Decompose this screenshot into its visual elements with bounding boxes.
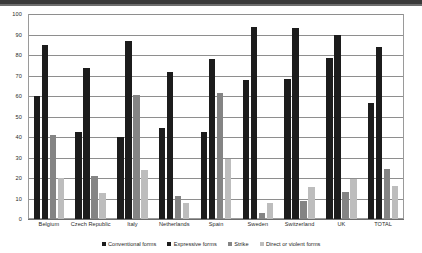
bar-group-belgium [28,14,70,219]
bar-total-series-2 [384,169,391,219]
legend-label-2: Strike [234,241,248,247]
y-tick-label-100: 100 [12,11,22,17]
bar-total-series-3 [392,186,399,219]
bar-spain-series-1 [209,59,216,219]
bar-belgium-series-3 [58,178,65,219]
chart-container: 0102030405060708090100 BelgiumCzech Repu… [0,0,422,253]
bar-uk-series-2 [342,192,349,219]
bar-italy-series-1 [125,41,132,219]
bar-group-total [362,14,404,219]
legend-item-strike[interactable]: Strike [228,241,249,247]
chart-legend: Conventional formsExpressive formsStrike… [0,238,422,250]
bar-uk-series-0 [326,58,333,219]
bar-netherlands-series-1 [167,72,174,219]
bar-czech-republic-series-2 [91,176,98,219]
bar-group-netherlands [153,14,195,219]
bar-spain-series-0 [201,132,208,219]
bar-sweden-series-3 [267,203,274,219]
x-tick-label-uk: UK [320,221,362,233]
bar-group-sweden [237,14,279,219]
legend-item-conventional-forms[interactable]: Conventional forms [102,241,157,247]
bar-belgium-series-2 [50,135,57,219]
legend-swatch-icon-0 [102,242,106,246]
legend-item-expressive-forms[interactable]: Expressive forms [167,241,216,247]
bar-italy-series-0 [117,137,124,219]
legend-swatch-icon-1 [167,242,171,246]
y-tick-label-10: 10 [16,196,22,202]
y-tick-label-0: 0 [19,216,22,222]
y-tick-label-30: 30 [16,155,22,161]
x-axis-category-labels: BelgiumCzech RepublicItalyNetherlandsSpa… [28,221,404,233]
bar-spain-series-2 [217,93,224,219]
bar-group-uk [320,14,362,219]
legend-item-direct-or-violent-forms[interactable]: Direct or violent forms [260,241,321,247]
y-tick-label-80: 80 [16,52,22,58]
bar-czech-republic-series-3 [99,193,106,219]
y-tick-label-50: 50 [16,114,22,120]
bar-switzerland-series-1 [292,28,299,219]
x-tick-label-total: TOTAL [362,221,404,233]
y-tick-label-70: 70 [16,73,22,79]
bar-netherlands-series-3 [183,203,190,219]
scan-edge-band-secondary [0,4,422,6]
bar-switzerland-series-2 [300,201,307,219]
bar-belgium-series-0 [34,96,41,219]
bar-sweden-series-1 [251,27,258,219]
bar-total-series-0 [368,103,375,219]
x-tick-label-italy: Italy [112,221,154,233]
legend-label-1: Expressive forms [174,241,217,247]
bar-belgium-series-1 [42,45,49,219]
bar-netherlands-series-0 [159,128,166,219]
bar-group-czech-republic [70,14,112,219]
bar-uk-series-3 [350,179,357,219]
y-tick-label-60: 60 [16,93,22,99]
x-tick-label-czech-republic: Czech Republic [70,221,112,233]
x-tick-label-netherlands: Netherlands [153,221,195,233]
bar-czech-republic-series-0 [75,132,82,219]
bar-uk-series-1 [334,35,341,220]
y-tick-label-20: 20 [16,175,22,181]
bar-netherlands-series-2 [175,196,182,219]
legend-label-3: Direct or violent forms [266,241,320,247]
bar-sweden-series-2 [259,213,266,219]
y-tick-label-40: 40 [16,134,22,140]
bar-group-spain [195,14,237,219]
bar-czech-republic-series-1 [83,68,90,219]
x-tick-label-switzerland: Switzerland [279,221,321,233]
legend-swatch-icon-2 [228,242,232,246]
bar-sweden-series-0 [243,80,250,219]
legend-swatch-icon-3 [260,242,264,246]
bar-italy-series-2 [133,95,140,219]
x-tick-label-belgium: Belgium [28,221,70,233]
bar-group-switzerland [279,14,321,219]
bar-italy-series-3 [141,170,148,219]
bar-switzerland-series-3 [308,187,315,219]
bar-spain-series-3 [225,159,232,219]
legend-label-0: Conventional forms [108,241,156,247]
bar-groups [28,14,404,219]
bar-group-italy [112,14,154,219]
bar-total-series-1 [376,47,383,219]
plot-area [28,14,404,219]
y-tick-label-90: 90 [16,32,22,38]
bar-switzerland-series-0 [284,79,291,219]
x-tick-label-sweden: Sweden [237,221,279,233]
gridline-0 [28,219,404,220]
y-axis-tick-labels: 0102030405060708090100 [0,14,26,219]
x-tick-label-spain: Spain [195,221,237,233]
